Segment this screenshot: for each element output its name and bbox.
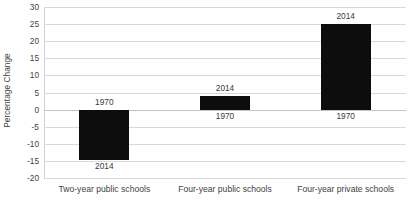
y-tick-label: 20 (30, 36, 39, 46)
y-tick-label: -10 (27, 139, 39, 149)
bar (200, 96, 250, 110)
plot-area: 201419702014197020141970 (44, 7, 406, 178)
y-tick-label: 0 (34, 105, 39, 115)
bar-baseline-label: 1970 (336, 111, 354, 121)
gridline (44, 178, 406, 179)
y-axis-title: Percentage Change (0, 0, 14, 180)
y-tick-label: 25 (30, 19, 39, 29)
bar-value-label: 2014 (336, 11, 354, 21)
bar-value-label: 2014 (216, 83, 234, 93)
bar-chart: Percentage Change 302520151050-5-10-15-2… (0, 0, 415, 204)
gridline (44, 7, 406, 8)
y-tick-label: -15 (27, 156, 39, 166)
x-category-label: Two-year public schools (58, 184, 150, 194)
bar-baseline-label: 1970 (216, 111, 234, 121)
y-tick-label: 5 (34, 88, 39, 98)
y-tick-label: 10 (30, 70, 39, 80)
x-category-label: Four-year public schools (178, 184, 272, 194)
y-axis-tick-labels: 302520151050-5-10-15-20 (14, 0, 42, 180)
y-tick-label: 30 (30, 2, 39, 12)
x-axis-category-labels: Two-year public schoolsFour-year public … (44, 184, 406, 204)
y-tick-label: -20 (27, 173, 39, 183)
bar-value-label: 2014 (95, 161, 113, 171)
y-tick-label: 15 (30, 53, 39, 63)
y-axis-title-text: Percentage Change (3, 53, 12, 128)
bar-baseline-label: 1970 (95, 97, 113, 107)
bar (321, 24, 371, 110)
bar (79, 110, 129, 160)
y-tick-label: -5 (32, 122, 39, 132)
x-category-label: Four-year private schools (297, 184, 394, 194)
